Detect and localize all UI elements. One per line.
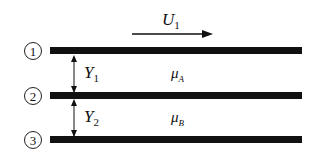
- gap2-label: Y2: [84, 107, 99, 128]
- gap1-label: Y1: [84, 63, 99, 84]
- plate-2: [50, 92, 302, 99]
- plate-1-number: 1: [24, 42, 42, 60]
- plate-3: [50, 136, 302, 143]
- diagram: U1 1 2 3 Y1 Y2 μA μB: [0, 0, 325, 157]
- velocity-arrow-head: [202, 30, 213, 38]
- velocity-label: U1: [162, 10, 180, 31]
- viscosity-b-label: μB: [171, 109, 184, 128]
- viscosity-a-label: μA: [171, 65, 184, 84]
- plate-1: [50, 47, 302, 54]
- plate-3-number: 3: [24, 131, 42, 149]
- plate-2-number: 2: [24, 87, 42, 105]
